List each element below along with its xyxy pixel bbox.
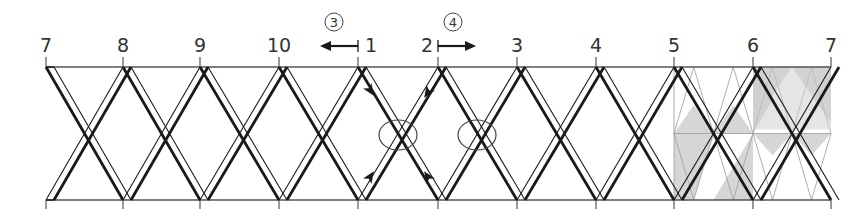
position-label: 6: [747, 34, 759, 56]
direction-marker-4: 4: [438, 13, 476, 52]
arrowhead-right-icon: [465, 41, 476, 51]
position-label: 5: [668, 34, 680, 56]
direction-marker-3: 3: [320, 13, 358, 52]
arrowhead-left-icon: [320, 41, 331, 51]
shaded-pattern-region: [674, 67, 831, 200]
position-label: 1: [365, 34, 377, 56]
position-label: 8: [117, 34, 129, 56]
direction-markers: 34: [320, 13, 476, 52]
position-label: 2: [421, 34, 433, 56]
marker-number: 4: [449, 15, 457, 30]
position-label: 4: [590, 34, 602, 56]
position-label: 3: [511, 34, 523, 56]
position-label: 9: [194, 34, 206, 56]
lacing-diagram: 789101234567 34: [0, 0, 865, 219]
marker-number: 3: [330, 15, 338, 30]
position-label: 10: [267, 34, 291, 56]
crossing-straps: [46, 67, 839, 200]
position-label: 7: [40, 34, 52, 56]
position-label: 7: [825, 34, 837, 56]
